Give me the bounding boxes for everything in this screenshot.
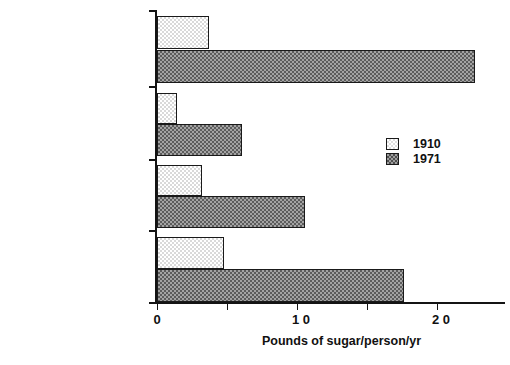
y-axis-tick — [149, 10, 155, 12]
x-axis-title: Pounds of sugar/person/yr — [262, 334, 421, 348]
bar-soft-drinks-1910 — [157, 16, 209, 49]
bar-dairy-products-1910 — [157, 93, 177, 124]
x-axis-tick-label-1: 1 0 — [292, 312, 310, 327]
legend: 1910 1971 — [386, 136, 441, 166]
bar-dairy-products-1971 — [157, 124, 242, 156]
x-axis-tick — [157, 304, 158, 310]
x-axis-tick — [367, 304, 368, 310]
legend-swatch-1971-icon — [386, 153, 399, 165]
legend-label-1910: 1910 — [413, 137, 441, 151]
bar-processed-fruit-vegetables-1971 — [157, 196, 305, 228]
x-axis-tick — [437, 304, 438, 310]
legend-swatch-1910-icon — [386, 138, 399, 150]
legend-item-1910: 1910 — [386, 136, 441, 151]
x-axis-tick-label-2: 2 0 — [432, 312, 450, 327]
y-axis-tick — [149, 230, 155, 232]
x-axis-tick-label-0: 0 — [153, 312, 160, 327]
legend-item-1971: 1971 — [386, 151, 441, 166]
bar-bakery-cereals-1971 — [157, 269, 404, 302]
x-axis-tick — [227, 304, 228, 310]
figure-caption — [4, 356, 506, 365]
x-axis-tick — [297, 304, 298, 310]
bar-processed-fruit-vegetables-1910 — [157, 165, 202, 196]
bar-bakery-cereals-1910 — [157, 237, 224, 269]
y-axis-tick — [149, 159, 155, 161]
y-axis-tick — [149, 302, 155, 304]
legend-label-1971: 1971 — [413, 152, 441, 166]
figure-container: Soft drinks Dairy products Processed fru… — [0, 0, 510, 365]
y-axis-tick — [149, 86, 155, 88]
x-axis-spine — [155, 302, 505, 304]
bar-soft-drinks-1971 — [157, 50, 475, 83]
